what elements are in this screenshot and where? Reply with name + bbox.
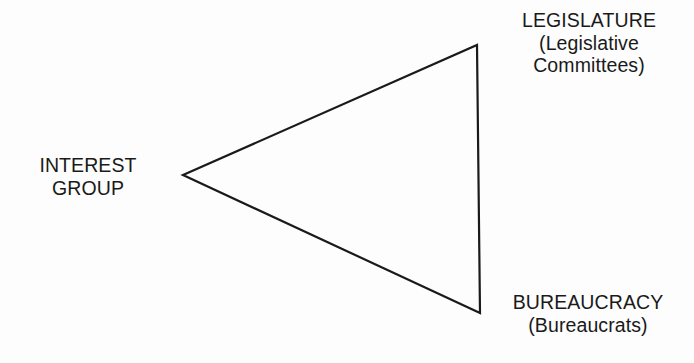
node-label-interest-group: INTEREST GROUP [8,154,168,199]
interest-group-line-2: GROUP [8,177,168,200]
bureaucracy-line-1: BUREAUCRACY [488,291,688,314]
diagram-canvas: LEGISLATURE (Legislative Committees) BUR… [0,0,694,363]
interest-group-line-1: INTEREST [8,154,168,177]
bureaucracy-line-2: (Bureaucrats) [488,314,688,337]
node-label-legislature: LEGISLATURE (Legislative Committees) [494,9,684,77]
triangle-outline [183,45,480,313]
legislature-line-3: Committees) [494,54,684,77]
legislature-line-1: LEGISLATURE [494,9,684,32]
legislature-line-2: (Legislative [494,32,684,55]
node-label-bureaucracy: BUREAUCRACY (Bureaucrats) [488,291,688,336]
